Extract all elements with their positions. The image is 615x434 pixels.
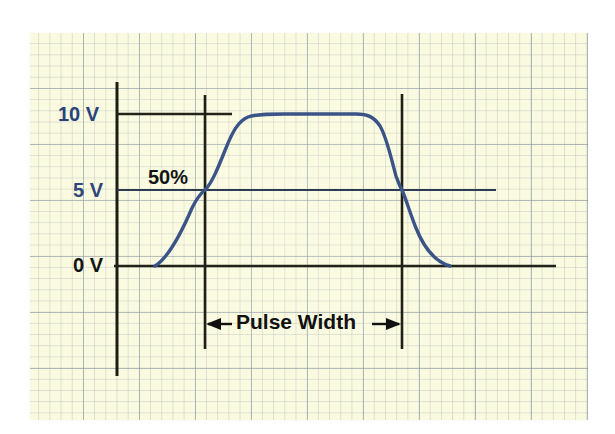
arrow-head-left-icon xyxy=(206,318,221,330)
waveform-plot xyxy=(0,0,615,434)
arrow-head-right-icon xyxy=(386,318,401,330)
axis-label-10v: 10 V xyxy=(58,104,99,124)
axis-label-5v: 5 V xyxy=(73,180,103,200)
figure-canvas: 10 V 5 V 0 V 50% Pulse Width xyxy=(0,0,615,434)
pulse-width-annotation: Pulse Width xyxy=(236,311,356,332)
fifty-percent-annotation: 50% xyxy=(148,167,188,187)
axis-label-0v: 0 V xyxy=(73,255,103,275)
